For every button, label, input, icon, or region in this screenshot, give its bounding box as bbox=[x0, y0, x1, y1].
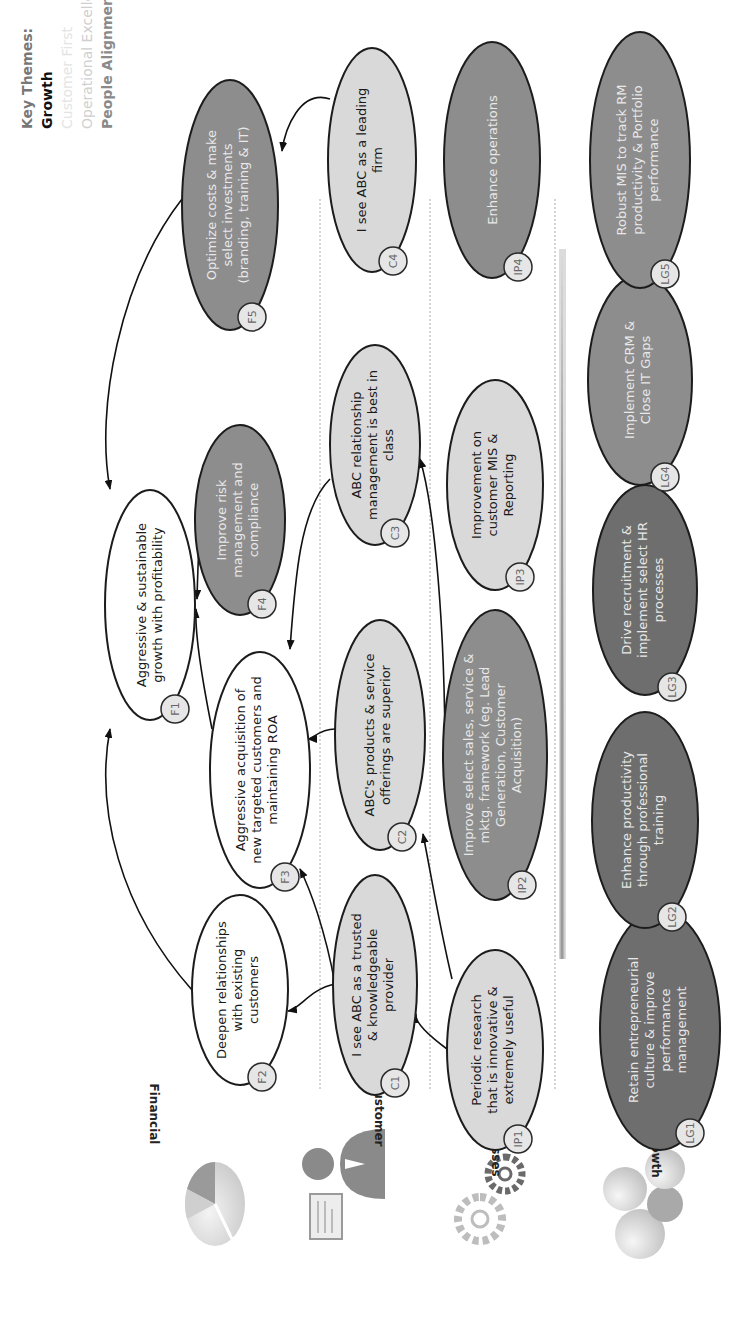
svg-text:IP3: IP3 bbox=[514, 569, 527, 586]
perspective-customer: Customer bbox=[302, 1081, 386, 1239]
svg-text:LG4: LG4 bbox=[659, 466, 672, 488]
svg-text:IP2: IP2 bbox=[516, 877, 529, 894]
arrow-F5-F1 bbox=[106, 199, 182, 489]
node-C2: ABC's products & serviceofferings are su… bbox=[335, 620, 425, 851]
arrow-F3-F1 bbox=[196, 609, 212, 729]
perspective-label-financial: Financial bbox=[147, 1084, 161, 1145]
svg-text:LG3: LG3 bbox=[666, 676, 679, 698]
strategy-map: Key Themes: Growth Customer First Operat… bbox=[0, 0, 741, 1329]
node-C3: ABC relationshipmanagement is best incla… bbox=[330, 345, 420, 547]
svg-text:F5: F5 bbox=[246, 310, 259, 323]
puzzle-pieces-icon bbox=[603, 1149, 685, 1259]
node-C4: I see ABC as a leadingfirm C4 bbox=[328, 48, 416, 275]
theme-growth: Growth bbox=[39, 71, 55, 129]
svg-text:IP1: IP1 bbox=[512, 1131, 525, 1148]
perspective-financial: Financial bbox=[147, 1084, 245, 1246]
node-IP1: Periodic researchthat is innovative &ext… bbox=[447, 950, 543, 1153]
pie-chart-icon bbox=[185, 1162, 245, 1246]
theme-customer-first: Customer First bbox=[59, 27, 75, 129]
key-themes-title: Key Themes: bbox=[19, 28, 35, 129]
arrow-IP1-C1 bbox=[416, 1014, 447, 1049]
node-LG4: Implement CRM &Close IT Gaps LG4 bbox=[588, 275, 692, 491]
svg-text:Implement CRM &Close IT Gaps: Implement CRM &Close IT Gaps bbox=[622, 321, 653, 439]
svg-text:F4: F4 bbox=[256, 597, 269, 610]
svg-text:C4: C4 bbox=[387, 254, 400, 269]
svg-text:LG5: LG5 bbox=[659, 263, 672, 285]
svg-text:Enhance operations: Enhance operations bbox=[485, 95, 500, 225]
arrow-C1-F3 bbox=[300, 869, 335, 984]
gradient-divider-shadow bbox=[559, 249, 566, 959]
svg-text:Periodic researchthat is innov: Periodic researchthat is innovative &ext… bbox=[469, 986, 516, 1113]
arrow-IP1-C2 bbox=[423, 834, 452, 979]
svg-text:LG2: LG2 bbox=[666, 906, 679, 928]
theme-operational-excellence: Operational Excellence bbox=[79, 0, 95, 129]
arrow-C4-F5 bbox=[282, 97, 330, 151]
node-F2: Deepen relationshipswith existingcustome… bbox=[192, 895, 288, 1091]
svg-text:IP4: IP4 bbox=[512, 259, 525, 276]
arrow-C2-F3 bbox=[308, 729, 335, 739]
node-C1: I see ABC as a trusted& knowledgeablepro… bbox=[333, 875, 417, 1097]
svg-text:C2: C2 bbox=[396, 830, 409, 845]
svg-text:ABC's products & serviceofferi: ABC's products & serviceofferings are su… bbox=[362, 654, 393, 817]
node-LG2: Enhance productivitythrough professional… bbox=[592, 712, 698, 931]
node-LG5: Robust MIS to track RMproductivity & Por… bbox=[590, 32, 690, 288]
svg-text:F2: F2 bbox=[256, 1070, 269, 1083]
theme-people-alignment: People Alignment bbox=[99, 0, 115, 129]
svg-text:Optimize costs & makeselect in: Optimize costs & makeselect investments(… bbox=[204, 126, 251, 283]
node-F4: Improve riskmanagement andcompliance F4 bbox=[195, 425, 285, 618]
key-themes-legend: Key Themes: Growth Customer First Operat… bbox=[19, 0, 115, 129]
node-LG3: Drive recruitment &implement select HRpr… bbox=[593, 485, 697, 701]
svg-text:F1: F1 bbox=[169, 702, 182, 715]
arrow-F2-F1 bbox=[106, 729, 192, 990]
svg-text:LG1: LG1 bbox=[684, 1122, 697, 1144]
arrow-C3-F3 bbox=[290, 479, 330, 649]
node-IP4: Enhance operations IP4 bbox=[444, 42, 540, 281]
svg-text:C1: C1 bbox=[389, 1076, 402, 1091]
node-IP3: Improvement oncustomer MIS &Reporting IP… bbox=[447, 380, 543, 591]
svg-text:F3: F3 bbox=[279, 870, 292, 883]
node-F1: Aggressive & sustainablegrowth with prof… bbox=[105, 490, 195, 723]
node-LG1: Retain entrepreneurialculture & improvep… bbox=[600, 910, 720, 1150]
arrow-C1-F2 bbox=[288, 984, 335, 1011]
svg-text:Aggressive & sustainablegrowth: Aggressive & sustainablegrowth with prof… bbox=[134, 523, 165, 687]
node-F5: Optimize costs & makeselect investments(… bbox=[182, 80, 278, 331]
node-IP2: Improve select sales, service &mktg. fra… bbox=[443, 610, 547, 900]
node-F3: Aggressive acquisition ofnew targeted cu… bbox=[210, 652, 310, 891]
svg-text:C3: C3 bbox=[389, 526, 402, 541]
